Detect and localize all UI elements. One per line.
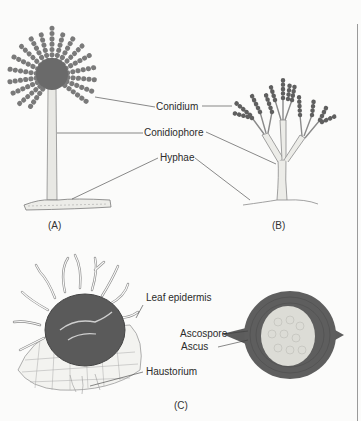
page-edge-rule [357, 24, 358, 421]
label-conidium: Conidium [156, 101, 198, 113]
panel-label-a: (A) [48, 220, 61, 232]
panel-label-c: (C) [174, 400, 188, 412]
label-hyphae: Hyphae [160, 152, 194, 164]
panel-b-drawing [243, 98, 320, 205]
panel-c-left-drawing [14, 255, 141, 394]
panel-c-right-drawing [222, 291, 344, 379]
figure-page: Conidium Conidiophore Hyphae (A) (B) Lea… [0, 0, 361, 421]
label-ascospore: Ascospore [180, 328, 227, 340]
label-haustorium: Haustorium [146, 366, 197, 378]
fungi-illustration [0, 0, 361, 421]
panel-a-drawing [8, 28, 111, 210]
panel-b-conidia [233, 80, 338, 122]
label-conidiophore: Conidiophore [144, 127, 204, 139]
panel-label-b: (B) [272, 220, 285, 232]
label-leaf-epidermis: Leaf epidermis [146, 292, 212, 304]
label-ascus: Ascus [181, 341, 208, 353]
